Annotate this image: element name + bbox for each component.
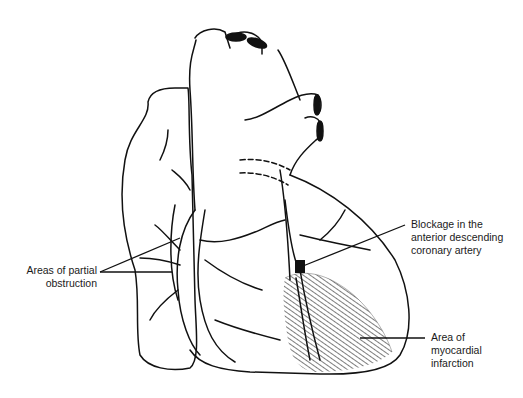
leader-partial-1 — [100, 238, 180, 272]
blockage-marker — [295, 260, 305, 273]
label-infarction: Area of myocardial infarction — [431, 331, 482, 370]
infarction-area — [270, 260, 410, 380]
heart-diagram: Areas of partial obstruction Blockage in… — [0, 0, 523, 398]
rca-artery — [198, 210, 235, 362]
pulmonary-opening-1 — [314, 95, 320, 115]
branch-opening-1 — [226, 33, 246, 41]
dashed-pulmonary — [240, 159, 290, 185]
branch-opening-2 — [246, 36, 268, 50]
pulmonary-opening-2 — [317, 121, 323, 141]
label-blockage: Blockage in the anterior descending coro… — [411, 218, 503, 257]
pulmonary-artery-outline — [245, 94, 321, 175]
label-partial-obstruction: Areas of partial obstruction — [2, 264, 97, 290]
leader-blockage — [303, 225, 405, 266]
